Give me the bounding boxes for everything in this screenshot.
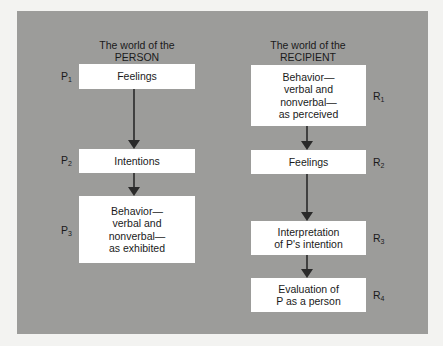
arrows-layer xyxy=(0,0,443,346)
arrowhead-r2-r3 xyxy=(301,212,313,221)
arrowhead-p1-p2 xyxy=(128,140,140,149)
arrowhead-r3-r4 xyxy=(301,269,313,278)
arrowhead-r1-r2 xyxy=(301,141,313,150)
arrowhead-p2-p3 xyxy=(128,187,140,196)
